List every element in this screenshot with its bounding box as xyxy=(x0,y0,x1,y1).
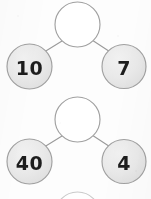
connector-whole-to-left-part-1 xyxy=(45,41,62,52)
bond-2-left-part-label: 40 xyxy=(16,152,43,174)
bond-1-whole-circle[interactable] xyxy=(55,2,100,47)
bond-group-1: 10 7 xyxy=(7,2,146,89)
bond-1-right-part-label: 7 xyxy=(117,57,131,79)
number-bond-worksheet: 10 7 40 4 xyxy=(0,0,151,199)
bond-2-whole-circle[interactable] xyxy=(55,97,100,142)
number-bond-diagram: 10 7 40 4 xyxy=(0,0,151,199)
bond-3-whole-circle[interactable] xyxy=(55,192,100,199)
connector-whole-to-left-part-2 xyxy=(45,136,62,147)
connector-whole-to-right-part-2 xyxy=(94,136,110,147)
bond-group-2: 40 4 xyxy=(7,97,146,184)
bond-2-right-part-label: 4 xyxy=(117,152,131,174)
connector-whole-to-right-part-1 xyxy=(94,41,110,52)
bond-1-left-part-label: 10 xyxy=(16,57,43,79)
bond-group-3 xyxy=(55,192,100,199)
